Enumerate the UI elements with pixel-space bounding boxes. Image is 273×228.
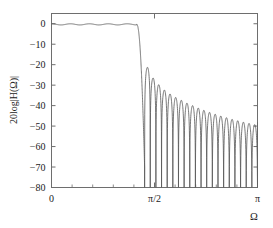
y-tick-label: 0 bbox=[41, 18, 46, 29]
y-tick-label: −30 bbox=[30, 80, 46, 91]
x-tick-label: π/2 bbox=[148, 193, 161, 204]
y-axis-tick-labels: 0−10−20−30−40−50−60−70−80 bbox=[30, 18, 46, 193]
x-axis-label: Ω bbox=[250, 211, 258, 222]
y-tick-label: −80 bbox=[30, 182, 46, 193]
y-tick-label: −40 bbox=[30, 100, 46, 111]
y-tick-label: −20 bbox=[30, 59, 46, 70]
y-axis-label: 20log|H(Ω)| bbox=[8, 76, 20, 124]
y-tick-label: −50 bbox=[30, 121, 46, 132]
y-tick-label: −10 bbox=[30, 39, 46, 50]
y-axis-label-group: 20log|H(Ω)| bbox=[8, 76, 20, 124]
figure-container: 0−10−20−30−40−50−60−70−80 0π/2π 20log|H(… bbox=[0, 0, 273, 228]
chart-background bbox=[0, 0, 273, 228]
y-tick-label: −60 bbox=[30, 141, 46, 152]
frequency-response-chart: 0−10−20−30−40−50−60−70−80 0π/2π 20log|H(… bbox=[0, 0, 273, 228]
x-tick-label: 0 bbox=[49, 193, 54, 204]
x-tick-label: π bbox=[255, 193, 260, 204]
y-tick-label: −70 bbox=[30, 162, 46, 173]
